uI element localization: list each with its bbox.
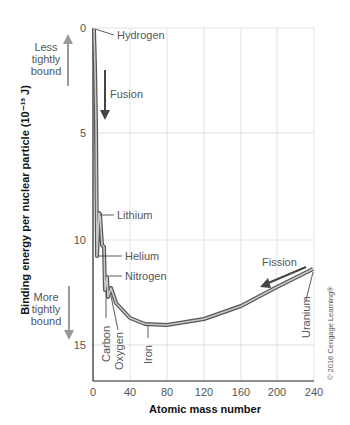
more-tightly-bound-arrow-icon [64,286,74,340]
x-tick-160: 160 [232,386,250,398]
less-label-2: tightly [32,53,61,65]
less-label-1: Less [34,41,58,53]
helium-label: Helium [125,250,159,262]
oxygen-label: Oxygen [113,332,125,370]
x-ticks: 0 40 80 120 160 200 240 [90,386,323,398]
y-tick-5: 5 [80,127,86,139]
grid [93,28,314,381]
fission-label: Fission [262,256,297,268]
uranium-label: Uranium [300,296,312,338]
x-tick-80: 80 [161,386,173,398]
y-ticks: 0 5 10 15 [74,22,86,351]
chart-svg: 0 5 10 15 0 40 80 120 160 200 240 Atomic… [0,0,350,425]
y-axis-label: Binding energy per nuclear particle (10⁻… [19,85,31,315]
lithium-label: Lithium [117,209,152,221]
fusion-label: Fusion [110,88,143,100]
x-tick-240: 240 [305,386,323,398]
more-label-3: bound [31,315,62,327]
hydrogen-label: Hydrogen [117,29,165,41]
axes [93,28,314,381]
x-tick-200: 200 [268,386,286,398]
more-label-2: tightly [32,303,61,315]
x-tick-120: 120 [195,386,213,398]
nitrogen-label: Nitrogen [125,270,167,282]
binding-energy-chart: 0 5 10 15 0 40 80 120 160 200 240 Atomic… [0,0,350,425]
fusion-arrow-icon [100,70,110,120]
carbon-label: Carbon [100,326,112,362]
x-tick-0: 0 [90,386,96,398]
iron-label: Iron [142,345,154,364]
less-label-3: bound [31,65,62,77]
x-axis-label: Atomic mass number [149,403,262,415]
x-tick-40: 40 [124,386,136,398]
more-label-1: More [33,291,58,303]
y-tick-0: 0 [80,22,86,34]
y-tick-15: 15 [74,339,86,351]
copyright-notice: © 2016 Cengage Learning® [326,286,335,380]
less-tightly-bound-arrow-icon [63,34,73,86]
y-tick-10: 10 [74,234,86,246]
